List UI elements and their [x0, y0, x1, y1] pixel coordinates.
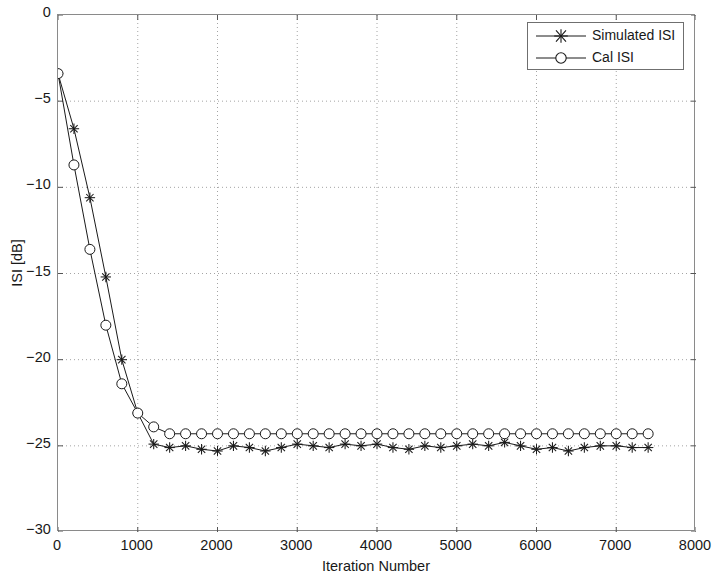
data-point-marker [436, 442, 446, 452]
legend-entry-cal-isi: Cal ISI [528, 47, 685, 69]
x-tick-label: 7000 [599, 537, 631, 553]
data-point-marker [372, 439, 382, 449]
x-axis-tick-labels: 010002000300040005000600070008000 [0, 537, 713, 559]
data-point-marker [164, 442, 174, 452]
data-point-marker [420, 429, 430, 439]
data-point-marker [101, 272, 111, 282]
y-tick-label: −15 [26, 263, 51, 279]
data-point-marker [563, 446, 573, 456]
data-point-marker [228, 441, 238, 451]
data-point-marker [516, 429, 526, 439]
data-point-marker [308, 429, 318, 439]
y-tick-label: −5 [34, 90, 51, 106]
data-point-marker [308, 441, 318, 451]
data-point-marker [85, 244, 95, 254]
data-point-marker [69, 124, 79, 134]
data-point-marker [101, 320, 111, 330]
data-point-marker [547, 429, 557, 439]
data-point-marker [595, 441, 605, 451]
data-point-marker [515, 441, 525, 451]
star-marker-icon [534, 25, 588, 47]
data-point-marker [260, 446, 270, 456]
data-point-marker [228, 429, 238, 439]
series-cal-isi [58, 69, 653, 439]
data-point-marker [484, 429, 494, 439]
data-point-marker [244, 429, 254, 439]
y-tick-label: −10 [26, 176, 51, 192]
data-point-marker [340, 439, 350, 449]
data-point-marker [85, 192, 95, 202]
isi-convergence-figure: 0−5−10−15−20−25−30 010002000300040005000… [0, 0, 713, 575]
y-tick-label: −20 [26, 349, 51, 365]
data-point-marker [388, 442, 398, 452]
data-point-marker [149, 422, 159, 432]
series-simulated-isi [58, 68, 653, 456]
x-tick-label: 1000 [121, 537, 153, 553]
data-point-marker [149, 439, 159, 449]
data-point-marker [468, 439, 478, 449]
data-point-marker [627, 429, 637, 439]
data-point-marker [388, 429, 398, 439]
x-tick-label: 2000 [200, 537, 232, 553]
data-point-marker [196, 444, 206, 454]
x-tick-label: 4000 [360, 537, 392, 553]
legend: Simulated ISI Cal ISI [527, 22, 684, 70]
data-point-marker [117, 379, 127, 389]
data-point-marker [372, 429, 382, 439]
data-point-marker [324, 429, 334, 439]
x-axis-title: Iteration Number [57, 558, 695, 574]
data-point-marker [404, 444, 414, 454]
data-point-marker [276, 442, 286, 452]
data-point-marker [212, 446, 222, 456]
data-point-marker [292, 429, 302, 439]
x-tick-label: 8000 [679, 537, 711, 553]
data-point-marker [133, 408, 143, 418]
data-point-marker [244, 442, 254, 452]
data-point-marker [420, 441, 430, 451]
data-point-marker [69, 160, 79, 170]
data-point-marker [579, 429, 589, 439]
series-line [58, 74, 648, 434]
data-point-marker [436, 429, 446, 439]
data-point-marker [452, 441, 462, 451]
data-point-marker [292, 439, 302, 449]
data-point-marker [117, 354, 127, 364]
x-tick-label: 6000 [519, 537, 551, 553]
data-point-marker [563, 429, 573, 439]
plot-area [57, 14, 695, 531]
data-point-marker [531, 444, 541, 454]
data-point-marker [547, 442, 557, 452]
data-point-marker [324, 442, 334, 452]
y-tick-label: 0 [43, 4, 51, 20]
data-point-marker [483, 441, 493, 451]
x-tick-label: 0 [53, 537, 61, 553]
data-point-marker [356, 441, 366, 451]
y-axis-tick-labels: 0−5−10−15−20−25−30 [0, 0, 51, 575]
data-point-marker [627, 442, 637, 452]
data-point-marker [611, 429, 621, 439]
data-point-marker [579, 442, 589, 452]
data-point-marker [213, 429, 223, 439]
x-tick-label: 5000 [440, 537, 472, 553]
plot-svg [58, 15, 696, 532]
data-point-marker [58, 69, 63, 79]
data-point-marker [611, 441, 621, 451]
data-point-marker [260, 429, 270, 439]
data-point-marker [468, 429, 478, 439]
legend-label-simulated-isi: Simulated ISI [592, 27, 675, 43]
data-point-marker [643, 429, 653, 439]
data-point-marker [181, 429, 191, 439]
legend-label-cal-isi: Cal ISI [592, 49, 634, 65]
circle-marker-icon [534, 47, 588, 69]
data-point-marker [532, 429, 542, 439]
legend-entry-simulated-isi: Simulated ISI [528, 25, 685, 47]
data-point-marker [165, 429, 175, 439]
data-point-marker [356, 429, 366, 439]
data-point-marker [180, 441, 190, 451]
data-point-marker [500, 429, 510, 439]
y-tick-label: −25 [26, 435, 51, 451]
x-tick-label: 3000 [280, 537, 312, 553]
data-point-marker [452, 429, 462, 439]
y-tick-label: −30 [26, 521, 51, 537]
y-axis-title: ISI [dB] [9, 213, 25, 313]
